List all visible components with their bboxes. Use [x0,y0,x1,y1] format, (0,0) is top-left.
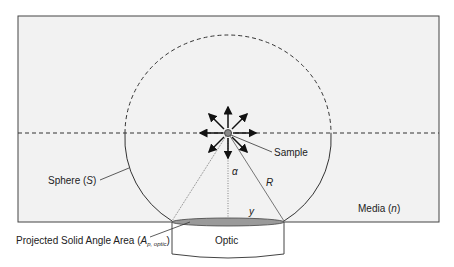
media-label: Media (n) [358,203,400,214]
y-label: y [248,206,255,217]
projected-area-ellipse [172,218,284,226]
sample-label: Sample [274,147,308,158]
projected-area-label: Projected Solid Angle Area (Ap, optic) [16,235,170,247]
alpha-label: α [232,166,238,177]
optic-label: Optic [215,235,238,246]
diagram-canvas: Sample α R y Media (n) Sphere (S) Projec… [0,0,454,267]
sphere-label: Sphere (S) [48,175,96,186]
sample-point [225,130,232,137]
radius-label: R [266,177,273,188]
